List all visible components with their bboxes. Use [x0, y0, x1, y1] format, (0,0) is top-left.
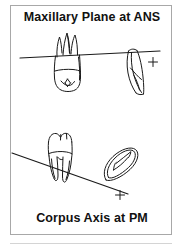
figure-root: Maxillary Plane at ANS — [0, 0, 184, 248]
ans-cross-marker — [149, 58, 158, 67]
tooth-upper-molar — [54, 33, 80, 92]
tooth-upper-incisor — [127, 49, 144, 95]
tooth-lower-incisor — [104, 148, 138, 181]
footer-divider — [10, 243, 172, 244]
diagram-canvas — [10, 5, 172, 235]
figure-title-bottom: Corpus Axis at PM — [0, 211, 184, 225]
tooth-lower-molar — [48, 133, 72, 182]
